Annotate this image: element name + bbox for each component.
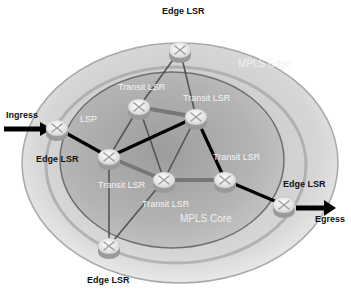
router-label: Edge LSR	[162, 6, 205, 16]
mpls-network-diagram: MPLS Edge MPLS Core Ingress Egress LSP E…	[0, 0, 351, 304]
router-label: Transit LSR	[183, 93, 231, 103]
router-label: Edge LSR	[36, 154, 79, 164]
mpls-edge-label: MPLS Edge	[238, 58, 292, 69]
router-label: Edge LSR	[87, 275, 130, 285]
router-label: Transit LSR	[142, 199, 190, 209]
router-label: Transit LSR	[118, 82, 166, 92]
router-label: Transit LSR	[213, 152, 261, 162]
ingress-label: Ingress	[6, 110, 38, 120]
egress-label: Egress	[315, 214, 345, 224]
router-label: Transit LSR	[98, 180, 146, 190]
mpls-core-label: MPLS Core	[180, 213, 232, 224]
lsp-label: LSP	[80, 114, 97, 124]
router-label: Edge LSR	[283, 179, 326, 189]
